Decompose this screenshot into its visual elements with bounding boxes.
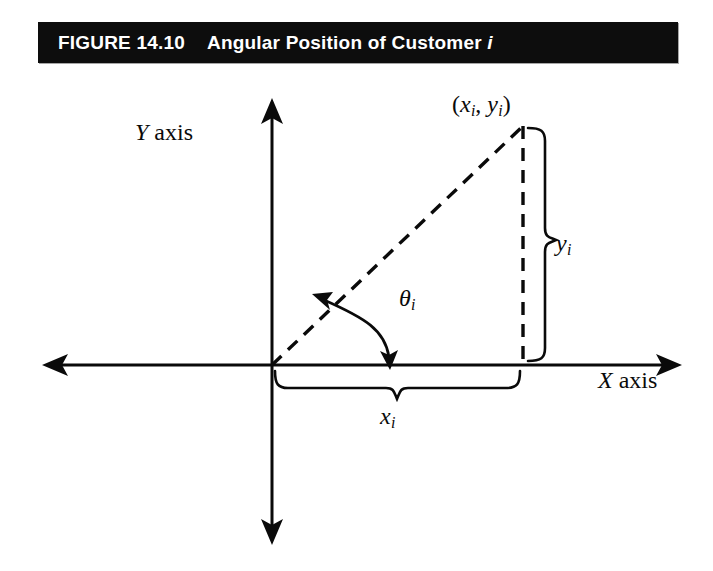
y-component-label: yi (556, 231, 571, 258)
y-axis-label-word: axis (154, 119, 193, 145)
y-axis (261, 98, 283, 545)
x-brace (275, 371, 520, 399)
theta-label-symbol: θ (399, 285, 411, 311)
point-label-y-symbol: y (487, 91, 498, 117)
point-label-x-symbol: x (460, 91, 471, 117)
coordinate-diagram (0, 0, 713, 571)
y-axis-label: Y axis (135, 120, 193, 144)
theta-angle-arc (312, 292, 398, 370)
dashed-radius-line (272, 126, 523, 365)
y-brace (528, 128, 556, 361)
x-axis-label: X axis (598, 368, 657, 392)
y-component-subscript: i (567, 241, 571, 258)
x-component-symbol: x (380, 403, 391, 429)
x-component-subscript: i (391, 414, 395, 431)
theta-label: θi (399, 286, 416, 313)
x-component-label: xi (380, 404, 395, 431)
theta-arrow-head-upper (312, 292, 333, 310)
point-coordinate-label: (xi, yi) (452, 92, 511, 119)
point-label-close-paren: ) (503, 91, 511, 117)
y-axis-label-symbol: Y (135, 119, 148, 145)
figure-container: FIGURE 14.10Angular Position of Customer… (0, 0, 713, 571)
x-axis (42, 354, 682, 376)
y-component-symbol: y (556, 230, 567, 256)
theta-label-subscript: i (411, 296, 415, 313)
x-axis-label-symbol: X (598, 367, 613, 393)
point-label-open-paren: ( (452, 91, 460, 117)
x-axis-label-word: axis (619, 367, 658, 393)
point-label-separator: , (475, 91, 487, 117)
